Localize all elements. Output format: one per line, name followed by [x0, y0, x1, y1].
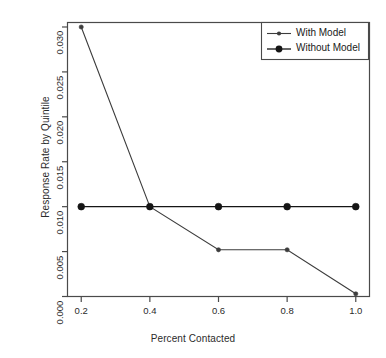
- chart-figure: 0.0000.0050.0100.0150.0200.0250.030 0.20…: [0, 0, 386, 358]
- data-point: [79, 25, 83, 29]
- legend-label-2: Without Model: [296, 42, 360, 53]
- data-point: [285, 248, 289, 252]
- data-point: [284, 203, 291, 210]
- y-tick-label: 0.005: [54, 250, 65, 284]
- x-tick-label: 1.0: [336, 305, 376, 316]
- y-tick-label: 0.025: [54, 70, 65, 104]
- x-tick-label: 0.6: [199, 305, 239, 316]
- data-point: [352, 203, 359, 210]
- legend-marker-2: [276, 46, 283, 53]
- x-tick-label: 0.8: [267, 305, 307, 316]
- x-tick-label: 0.4: [130, 305, 170, 316]
- data-point: [78, 203, 85, 210]
- x-axis-title: Percent Contacted: [0, 333, 386, 344]
- y-tick-label: 0.030: [54, 25, 65, 59]
- y-tick-label: 0.020: [54, 115, 65, 149]
- x-tick-label: 0.2: [61, 305, 101, 316]
- data-point: [216, 248, 220, 252]
- data-point: [146, 203, 153, 210]
- legend-marker-1: [277, 31, 281, 35]
- data-point: [354, 292, 358, 296]
- y-tick-label: 0.015: [54, 160, 65, 194]
- y-axis-title: Response Rate by Quintile: [40, 96, 51, 217]
- data-point: [215, 203, 222, 210]
- y-axis-title-wrapper: Response Rate by Quintile: [38, 17, 52, 297]
- legend-label-1: With Model: [296, 27, 346, 38]
- y-tick-label: 0.010: [54, 205, 65, 239]
